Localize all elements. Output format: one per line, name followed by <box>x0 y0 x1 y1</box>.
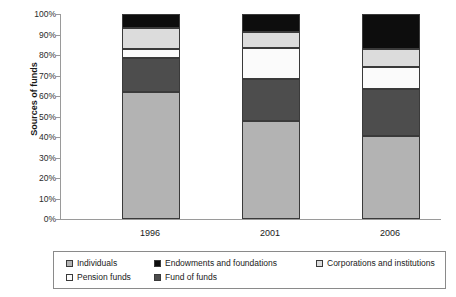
x-axis-label-2001: 2001 <box>210 228 330 238</box>
legend-swatch-icon <box>154 274 161 281</box>
y-axis-tick-label: 20% <box>0 174 56 183</box>
bar-segment[interactable] <box>122 28 180 49</box>
legend-item-endowments-and-foundations[interactable]: Endowments and foundations <box>154 258 277 268</box>
plot-area <box>60 14 441 220</box>
bar-segment[interactable] <box>242 121 300 219</box>
x-axis-label-1996: 1996 <box>90 228 210 238</box>
stacked-bar-chart: Sources of funds 0%10%20%30%40%50%60%70%… <box>0 0 456 297</box>
legend-row: IndividualsEndowments and foundationsCor… <box>60 256 439 270</box>
legend-swatch-icon <box>316 260 323 267</box>
y-axis-tick-label: 60% <box>0 92 56 101</box>
legend-label: Pension funds <box>77 272 131 282</box>
legend-swatch-icon <box>66 274 73 281</box>
bar-segment[interactable] <box>122 49 180 58</box>
bar-segment[interactable] <box>362 14 420 49</box>
bar-2001[interactable] <box>242 14 300 219</box>
bar-2006[interactable] <box>362 14 420 219</box>
bar-segment[interactable] <box>122 14 180 28</box>
bar-segment[interactable] <box>242 14 300 32</box>
legend-item-fund-of-funds[interactable]: Fund of funds <box>154 272 217 282</box>
y-axis-tick-label: 80% <box>0 51 56 60</box>
legend-label: Endowments and foundations <box>165 258 277 268</box>
y-axis-tick-label: 100% <box>0 10 56 19</box>
bar-segment[interactable] <box>242 79 300 121</box>
y-axis-tick-label: 10% <box>0 195 56 204</box>
legend-item-corporations-and-institutions[interactable]: Corporations and institutions <box>316 258 435 268</box>
legend-row: Pension fundsFund of funds <box>60 270 439 284</box>
bar-segment[interactable] <box>242 48 300 79</box>
y-axis-tick-label: 0% <box>0 215 56 224</box>
legend-item-pension-funds[interactable]: Pension funds <box>66 272 131 282</box>
legend-swatch-icon <box>154 260 161 267</box>
legend-swatch-icon <box>66 260 73 267</box>
bar-segment[interactable] <box>122 58 180 92</box>
bar-segment[interactable] <box>362 49 420 67</box>
y-axis-tick-label: 90% <box>0 31 56 40</box>
y-axis-tick-label: 50% <box>0 113 56 122</box>
bar-segment[interactable] <box>122 92 180 219</box>
x-axis-label-2006: 2006 <box>330 228 450 238</box>
bar-1996[interactable] <box>122 14 180 219</box>
chart-legend: IndividualsEndowments and foundationsCor… <box>53 251 446 289</box>
y-axis-tick-label: 30% <box>0 154 56 163</box>
legend-item-individuals[interactable]: Individuals <box>66 258 117 268</box>
bar-segment[interactable] <box>362 67 420 89</box>
bar-segment[interactable] <box>242 32 300 47</box>
legend-label: Fund of funds <box>165 272 217 282</box>
legend-label: Individuals <box>77 258 117 268</box>
y-axis-tick-label: 70% <box>0 72 56 81</box>
legend-label: Corporations and institutions <box>327 258 435 268</box>
bar-segment[interactable] <box>362 136 420 219</box>
y-axis-tick-label: 40% <box>0 133 56 142</box>
bar-segment[interactable] <box>362 89 420 136</box>
